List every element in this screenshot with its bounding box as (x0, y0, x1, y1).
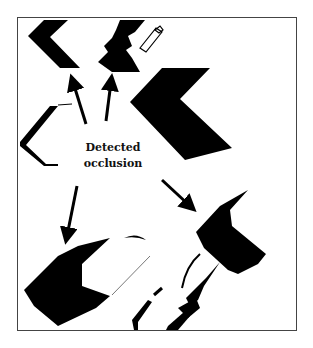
annotation-line-1: Detected (68, 140, 158, 156)
occlusion-diagram (0, 0, 313, 348)
outlined-object (140, 26, 163, 52)
hammer-shape-right (132, 190, 266, 330)
arrow-up-left (73, 82, 86, 124)
annotation-label: Detected occlusion (68, 140, 158, 172)
jagged-shape-top-center (98, 20, 145, 72)
chevron-outline-left (20, 104, 72, 166)
arrow-down-right (162, 180, 190, 206)
annotation-line-2: occlusion (68, 156, 158, 172)
vehicle-shape-bottom-left (24, 235, 150, 326)
chevron-shape-top-left (28, 20, 80, 68)
arrow-up-center (106, 82, 111, 121)
arrow-down-left (67, 186, 77, 236)
